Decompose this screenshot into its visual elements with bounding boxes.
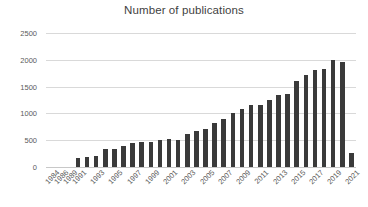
x-axis-tick-label: 2003 [180,168,198,186]
bar[interactable] [258,105,263,167]
x-axis-tick-label: 2019 [325,168,343,186]
bar[interactable] [149,142,154,167]
bar[interactable] [203,129,208,167]
y-axis-tick-label: 1000 [20,109,37,118]
bar[interactable] [76,158,81,167]
x-axis-tick-label: 1999 [143,168,161,186]
bar[interactable] [158,140,163,167]
bar[interactable] [313,70,318,167]
bar[interactable] [85,157,90,167]
bar[interactable] [121,146,126,167]
bar[interactable] [139,142,144,167]
x-axis-tick-label: 2015 [289,168,307,186]
bar[interactable] [294,81,299,167]
bar[interactable] [267,100,272,167]
bar[interactable] [103,149,108,167]
x-axis-tick-label: 2021 [344,168,362,186]
y-axis: 05001000150020002500 [0,33,42,167]
bar[interactable] [167,139,172,167]
bar[interactable] [112,149,117,167]
y-axis-tick-label: 1500 [20,82,37,91]
bar[interactable] [331,60,336,167]
publications-bar-chart: Number of publications 05001000150020002… [0,0,368,207]
bar[interactable] [94,156,99,167]
y-axis-tick-label: 2000 [20,55,37,64]
bar[interactable] [130,143,135,167]
bar[interactable] [276,95,281,167]
y-axis-tick-label: 500 [24,136,37,145]
x-axis-tick-label: 2001 [161,168,179,186]
bar[interactable] [349,153,354,167]
x-axis-tick-label: 2017 [307,168,325,186]
bars-layer [46,33,356,167]
bar[interactable] [304,75,309,167]
x-axis-tick-label: 2007 [216,168,234,186]
bar[interactable] [176,140,181,167]
bar[interactable] [194,131,199,167]
bar[interactable] [212,123,217,167]
y-axis-tick-label: 2500 [20,29,37,38]
x-axis-tick-label: 1993 [88,168,106,186]
x-axis-tick-label: 1997 [125,168,143,186]
x-axis-tick-label: 2013 [271,168,289,186]
x-axis-tick-label: 2005 [198,168,216,186]
bar[interactable] [231,113,236,167]
bar[interactable] [285,94,290,167]
bar[interactable] [221,119,226,167]
x-axis-tick-label: 2011 [253,168,271,186]
y-axis-tick-label: 0 [33,163,37,172]
bar[interactable] [185,134,190,167]
bar[interactable] [240,109,245,167]
bar[interactable] [340,62,345,167]
bar[interactable] [249,105,254,167]
x-axis-tick-label: 1995 [107,168,125,186]
x-axis-tick-label: 2009 [234,168,252,186]
x-axis: 1984198619891991199319951997199920012003… [46,168,356,207]
plot-area [46,33,356,167]
bar[interactable] [322,69,327,167]
chart-title: Number of publications [0,4,368,16]
